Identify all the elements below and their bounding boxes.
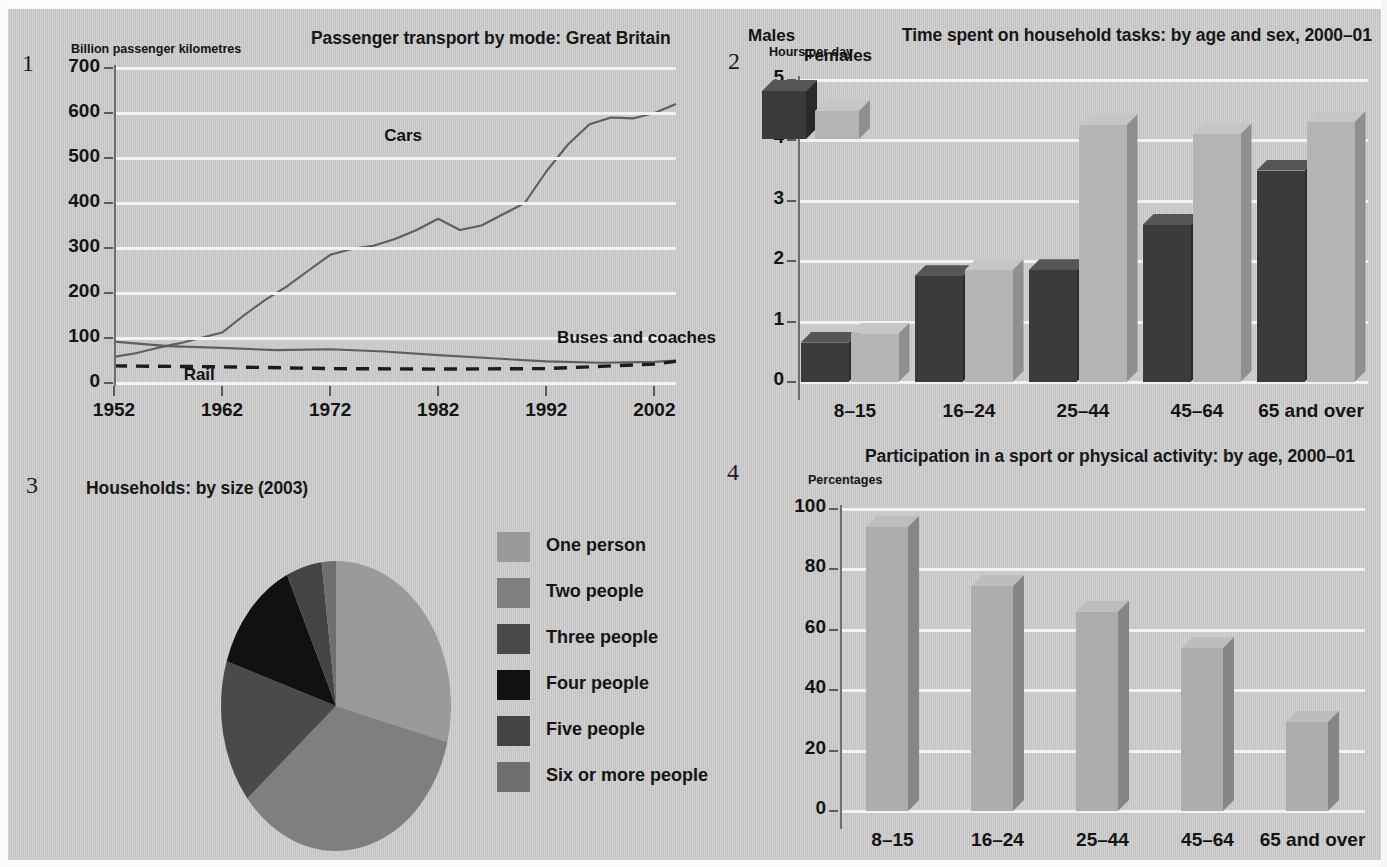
panel-1-x-tickmark <box>329 386 331 396</box>
panel-1-y-axis-unit: Billion passenger kilometres <box>71 42 241 56</box>
panel-4-bar <box>971 575 1024 811</box>
panel-1-y-tickmark <box>104 247 113 249</box>
panel-4-bar-side <box>908 516 919 811</box>
panel-3-pie <box>221 561 451 851</box>
panel-3-legend-label: Five people <box>546 719 645 740</box>
panel-1-x-tick-label: 1972 <box>286 399 374 421</box>
panel-4-bar <box>1076 601 1129 811</box>
panel-1-gridline <box>114 247 676 250</box>
panel-1-number: 1 <box>22 50 34 77</box>
panel-4-bar <box>1286 711 1339 811</box>
panel-3-pie-svg <box>221 561 451 851</box>
panel-1-y-tick-label: 400 <box>38 190 100 212</box>
panel-3-legend-swatch <box>497 578 530 608</box>
chart-panel-3: 3 Households: by size (2003) One personT… <box>0 430 700 867</box>
panel-3-legend-label: Four people <box>546 673 649 694</box>
panel-1-annotation-cars: Cars <box>384 126 422 146</box>
panel-2-bar-front <box>801 343 849 382</box>
panel-1-x-tickmark <box>113 386 115 396</box>
panel-1-x-tickmark <box>221 386 223 396</box>
panel-2-legend-cube <box>762 80 817 139</box>
panel-1-annotation-buses-and-coaches: Buses and coaches <box>557 328 716 348</box>
panel-3-legend-swatch <box>497 762 530 792</box>
panel-1-y-tick-label: 700 <box>38 55 100 77</box>
panel-3-legend: One personTwo peopleThree peopleFour peo… <box>497 526 697 802</box>
panel-2-legend-cube-front <box>762 91 806 139</box>
panel-4-bar-front <box>971 586 1013 811</box>
chart-panel-4: 4 Participation in a sport or physical a… <box>700 430 1387 867</box>
panel-4-y-tick-label: 40 <box>782 676 826 698</box>
panel-3-legend-swatch <box>497 670 530 700</box>
panel-4-y-tick-label: 0 <box>782 797 826 819</box>
panel-2-y-tick-label: 3 <box>762 187 784 209</box>
panel-3-legend-swatch <box>497 624 530 654</box>
panel-2-gridline <box>798 79 1368 82</box>
panel-2-y-tickmark <box>787 260 796 262</box>
panel-4-y-axis-unit: Percentages <box>808 473 882 487</box>
panel-1-y-tick-label: 300 <box>38 235 100 257</box>
panel-2-bar <box>1193 123 1252 382</box>
panel-2-legend-cube-front <box>815 111 859 139</box>
panel-4-number: 4 <box>727 459 739 486</box>
panel-2-y-tick-label: 2 <box>762 247 784 269</box>
page-canvas: 1 Passenger transport by mode: Great Bri… <box>0 0 1387 867</box>
panel-4-y-tick-label: 80 <box>782 555 826 577</box>
panel-3-legend-swatch <box>497 532 530 562</box>
panel-3-legend-row: Six or more people <box>497 756 697 802</box>
panel-2-y-tickmark <box>787 381 796 383</box>
panel-4-y-tick-label: 100 <box>782 495 826 517</box>
panel-3-legend-row: One person <box>497 526 697 572</box>
panel-4-y-tickmark <box>829 689 838 691</box>
panel-1-annotation-rail: Rail <box>184 365 215 385</box>
panel-2-y-tick-label: 1 <box>762 308 784 330</box>
panel-1-y-tickmark <box>104 112 113 114</box>
panel-4-bar <box>1181 637 1234 811</box>
panel-1-x-tick-label: 1952 <box>70 399 158 421</box>
panel-3-legend-swatch <box>497 716 530 746</box>
panel-3-number: 3 <box>26 472 38 499</box>
panel-1-y-tick-label: 100 <box>38 325 100 347</box>
panel-2-bar-front <box>965 270 1013 382</box>
panel-4-bar-side <box>1223 637 1234 811</box>
panel-3-legend-row: Three people <box>497 618 697 664</box>
panel-3-legend-row: Five people <box>497 710 697 756</box>
panel-2-legend-cube <box>815 100 870 139</box>
panel-1-y-tickmark <box>104 67 113 69</box>
panel-2-bar-side <box>1241 123 1252 382</box>
panel-4-bar-front <box>866 527 908 811</box>
panel-4-bar-side <box>1328 711 1339 811</box>
panel-2-bar-front <box>1307 122 1355 382</box>
panel-2-y-tickmark <box>787 321 796 323</box>
panel-2-bar-front <box>1257 171 1305 382</box>
panel-2-bar-side <box>1355 111 1366 382</box>
panel-4-bar-side <box>1118 601 1129 811</box>
panel-2-bar-side <box>1127 114 1138 382</box>
panel-2-bar-front <box>915 276 963 382</box>
panel-2-bar <box>965 259 1024 382</box>
panel-1-y-axis-line <box>114 65 116 386</box>
panel-3-legend-row: Four people <box>497 664 697 710</box>
panel-2-title: Time spent on household tasks: by age an… <box>902 25 1372 46</box>
panel-4-gridline <box>840 508 1365 511</box>
chart-panel-2: 2 Time spent on household tasks: by age … <box>700 0 1387 430</box>
panel-4-title: Participation in a sport or physical act… <box>865 446 1355 467</box>
panel-1-x-tick-label: 2002 <box>610 399 698 421</box>
panel-1-x-tickmark <box>545 386 547 396</box>
panel-1-gridline <box>114 112 676 115</box>
panel-1-y-tickmark <box>104 382 113 384</box>
panel-2-y-tickmark <box>787 139 796 141</box>
panel-2-y-tick-label: 0 <box>762 368 784 390</box>
panel-1-y-tick-label: 0 <box>38 370 100 392</box>
panel-1-x-tickmark <box>653 386 655 396</box>
panel-1-y-tick-label: 600 <box>38 100 100 122</box>
panel-2-y-tickmark <box>787 200 796 202</box>
panel-2-bar-front <box>851 334 899 382</box>
panel-3-legend-label: Three people <box>546 627 658 648</box>
panel-2-bar-side <box>1013 259 1024 382</box>
panel-4-bar <box>866 516 919 811</box>
panel-3-title: Households: by size (2003) <box>86 478 308 499</box>
panel-3-legend-label: Six or more people <box>546 765 708 786</box>
panel-1-x-tickmark <box>437 386 439 396</box>
panel-2-bar-front <box>1143 225 1191 382</box>
panel-1-x-tick-label: 1982 <box>394 399 482 421</box>
